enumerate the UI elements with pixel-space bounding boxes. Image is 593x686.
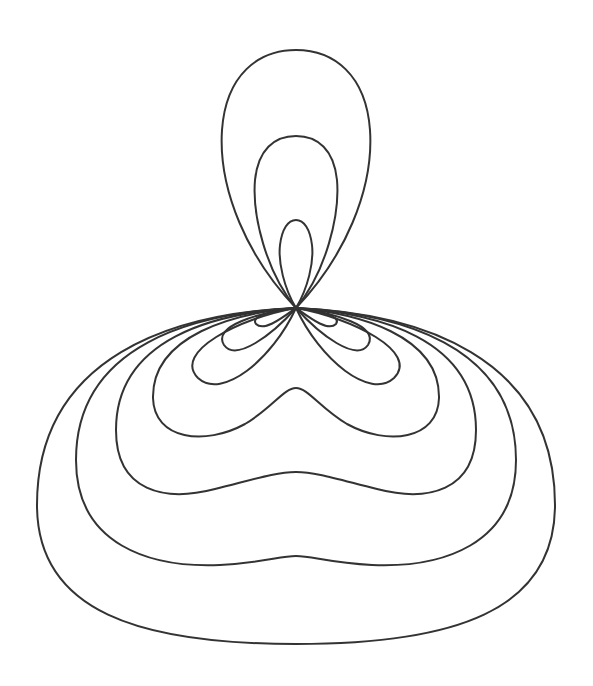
bulb-4 (37, 308, 555, 644)
top-lobe-middle (255, 136, 338, 308)
polar-curve-family-figure (0, 0, 593, 686)
bulb-3 (76, 308, 516, 565)
bulb-curves (37, 308, 555, 644)
top-lobe-outer (222, 50, 371, 308)
top-lobes (222, 50, 371, 308)
bulb-2 (116, 308, 476, 494)
